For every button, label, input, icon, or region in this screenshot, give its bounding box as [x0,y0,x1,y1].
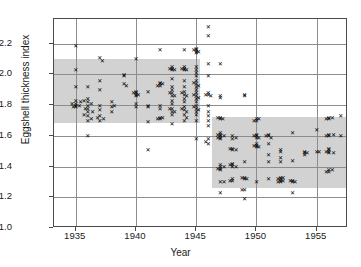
data-point-marker: ✕ [338,113,343,118]
x-tick-mark [195,227,196,231]
data-point-marker: ✕ [82,112,87,117]
data-point-marker: ✕ [112,103,117,108]
data-point-marker: ✕ [85,84,90,89]
data-point-marker: ✕ [256,135,261,140]
data-point-marker: ✕ [194,118,199,123]
data-point-marker: ✕ [218,61,223,66]
data-point-marker: ✕ [221,133,226,138]
data-point-marker: ✕ [155,116,160,121]
gridline-vertical [136,19,137,226]
data-point-marker: ✕ [242,93,247,98]
data-point-marker: ✕ [172,67,177,72]
data-point-marker: ✕ [268,135,273,140]
data-point-marker: ✕ [89,101,94,106]
data-point-marker: ✕ [266,141,271,146]
data-point-marker: ✕ [85,133,90,138]
x-tick-label: 1945 [170,230,220,241]
data-point-marker: ✕ [145,89,150,94]
data-point-marker: ✕ [90,109,95,114]
data-point-marker: ✕ [145,104,150,109]
data-point-marker: ✕ [317,149,322,154]
data-point-marker: ✕ [278,149,283,154]
data-point-marker: ✕ [184,109,189,114]
data-point-marker: ✕ [160,115,165,120]
y-tick-label: 2.2 [0,38,12,47]
data-point-marker: ✕ [233,164,238,169]
data-point-marker: ✕ [73,43,78,48]
data-point-marker: ✕ [331,150,336,155]
data-point-marker: ✕ [266,176,271,181]
data-point-marker: ✕ [73,84,78,89]
data-point-marker: ✕ [109,109,114,114]
x-tick-mark [75,227,76,231]
data-point-marker: ✕ [324,149,329,154]
data-point-marker: ✕ [196,95,201,100]
data-point-marker: ✕ [290,190,295,195]
data-point-marker: ✕ [233,147,238,152]
data-point-marker: ✕ [324,116,329,121]
data-point-marker: ✕ [292,179,297,184]
data-point-marker: ✕ [254,179,259,184]
data-point-marker: ✕ [145,147,150,152]
data-point-marker: ✕ [206,61,211,66]
data-point-marker: ✕ [170,121,175,126]
data-point-marker: ✕ [218,95,223,100]
gridline-horizontal [54,74,346,75]
data-point-marker: ✕ [227,146,232,151]
data-point-marker: ✕ [266,152,271,157]
y-tick-label: 2.0 [0,68,12,77]
data-point-marker: ✕ [206,103,211,108]
data-point-marker: ✕ [206,33,211,38]
data-point-marker: ✕ [278,159,283,164]
data-point-marker: ✕ [239,187,244,192]
x-axis-label: Year [0,247,361,258]
data-point-marker: ✕ [184,93,189,98]
data-point-marker: ✕ [331,132,336,137]
data-point-marker: ✕ [330,167,335,172]
gridline-horizontal [54,167,346,168]
data-point-marker: ✕ [324,133,329,138]
data-point-marker: ✕ [256,116,261,121]
gridline-horizontal [54,197,346,198]
y-tick-label: 1.0 [0,222,12,231]
data-point-marker: ✕ [233,135,238,140]
gridline-vertical [317,19,318,226]
data-point-marker: ✕ [170,76,175,81]
data-point-marker: ✕ [182,47,187,52]
x-tick-mark [135,227,136,231]
data-point-marker: ✕ [215,166,220,171]
data-point-marker: ✕ [95,115,100,120]
data-point-marker: ✕ [242,159,247,164]
gridline-vertical [76,19,77,226]
data-point-marker: ✕ [160,81,165,86]
data-point-marker: ✕ [89,116,94,121]
data-point-marker: ✕ [82,98,87,103]
gridline-horizontal [54,136,346,137]
y-tick-label: 1.2 [0,191,12,200]
data-point-marker: ✕ [172,93,177,98]
data-point-marker: ✕ [97,87,102,92]
data-point-marker: ✕ [158,106,163,111]
data-point-marker: ✕ [155,83,160,88]
y-tick-label: 1.6 [0,130,12,139]
data-point-marker: ✕ [220,116,225,121]
data-point-marker: ✕ [196,107,201,112]
data-point-marker: ✕ [172,109,177,114]
data-point-marker: ✕ [124,83,129,88]
data-point-marker: ✕ [314,127,319,132]
data-point-marker: ✕ [184,115,189,120]
data-point-marker: ✕ [121,73,126,78]
data-point-marker: ✕ [97,78,102,83]
data-point-marker: ✕ [330,115,335,120]
data-point-marker: ✕ [221,179,226,184]
data-point-marker: ✕ [136,92,141,97]
y-tick-label: 1.8 [0,99,12,108]
data-point-marker: ✕ [244,176,249,181]
eggshell-thickness-scatter-figure: Eggshell thickness index Year 1.01.21.41… [0,0,361,267]
data-point-marker: ✕ [221,164,226,169]
data-point-marker: ✕ [338,133,343,138]
x-tick-label: 1940 [110,230,160,241]
data-point-marker: ✕ [290,130,295,135]
data-point-marker: ✕ [101,116,106,121]
data-point-marker: ✕ [206,73,211,78]
